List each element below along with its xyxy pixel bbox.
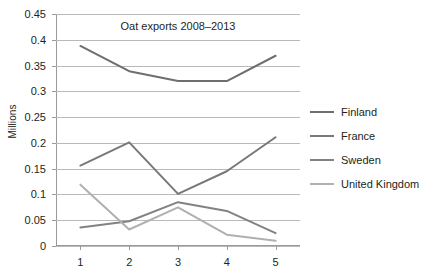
legend-item-united-kingdom[interactable]: United Kingdom	[310, 172, 436, 196]
legend-label: United Kingdom	[341, 178, 419, 190]
legend-swatch-icon	[310, 111, 334, 113]
line-chart: Millions 0.450.40.350.30.250.20.150.10.0…	[0, 0, 436, 273]
x-tick-mark	[276, 246, 277, 250]
x-tick-label: 1	[65, 256, 95, 268]
x-tick-mark	[80, 246, 81, 250]
x-tick-mark	[227, 246, 228, 250]
legend-label: France	[341, 130, 375, 142]
legend-label: Finland	[341, 106, 377, 118]
series-lines	[56, 14, 300, 246]
series-line-finland	[80, 46, 275, 81]
x-tick-label: 2	[114, 256, 144, 268]
legend-item-france[interactable]: France	[310, 124, 436, 148]
legend-label: Sweden	[341, 154, 381, 166]
x-tick-label: 5	[261, 256, 291, 268]
legend-swatch-icon	[310, 159, 334, 161]
y-tick-label: 0.25	[6, 112, 46, 123]
x-tick-label: 3	[163, 256, 193, 268]
y-tick-mark	[52, 246, 56, 247]
x-tick-mark	[178, 246, 179, 250]
y-tick-label: 0.2	[6, 137, 46, 148]
series-line-france	[80, 137, 275, 194]
legend-swatch-icon	[310, 183, 334, 185]
y-tick-label: 0.45	[6, 9, 46, 20]
y-tick-label: 0.3	[6, 86, 46, 97]
y-tick-label: 0.35	[6, 60, 46, 71]
y-tick-label: 0.1	[6, 189, 46, 200]
y-tick-label: 0.15	[6, 163, 46, 174]
legend-item-finland[interactable]: Finland	[310, 100, 436, 124]
y-axis-tick-labels: 0.450.40.350.30.250.20.150.10.050	[6, 0, 46, 273]
x-tick-label: 4	[212, 256, 242, 268]
legend: FinlandFranceSwedenUnited Kingdom	[310, 100, 436, 196]
legend-swatch-icon	[310, 135, 334, 137]
y-tick-label: 0.05	[6, 215, 46, 226]
y-tick-label: 0	[6, 241, 46, 252]
plot-area: 12345	[56, 14, 300, 246]
x-tick-mark	[129, 246, 130, 250]
y-tick-label: 0.4	[6, 34, 46, 45]
legend-item-sweden[interactable]: Sweden	[310, 148, 436, 172]
